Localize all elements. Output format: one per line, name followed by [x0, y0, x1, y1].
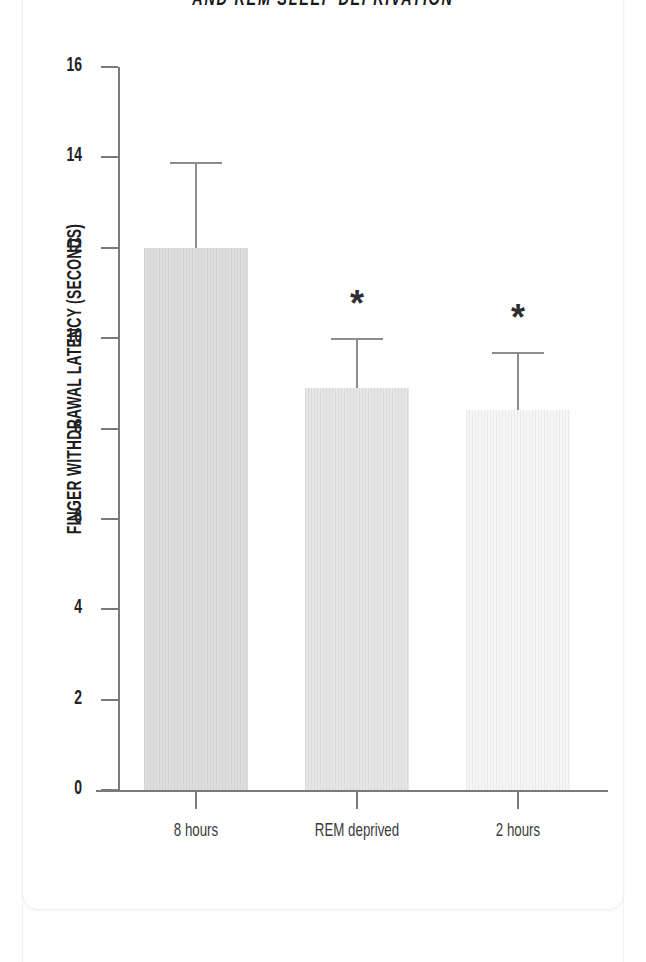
y-tick	[101, 789, 118, 791]
y-tick-label: 6	[2, 505, 82, 528]
y-tick-label: 10	[2, 324, 82, 347]
y-tick	[101, 337, 118, 339]
x-tick	[356, 792, 358, 809]
error-bar-cap	[170, 162, 222, 164]
x-axis-line	[96, 790, 608, 792]
x-tick-label: 2 hours	[448, 819, 588, 841]
bar-rem-deprived	[305, 388, 409, 790]
x-tick	[195, 792, 197, 809]
error-bar-stem	[356, 338, 358, 388]
plot-area: FINGER WITHDRAWAL LATENCY (SECONDS) 0246…	[118, 67, 608, 790]
y-tick-label: 8	[2, 415, 82, 438]
error-bar-stem	[517, 352, 519, 411]
bar-8-hours	[144, 248, 248, 790]
significance-marker: *	[327, 286, 387, 322]
y-tick-label: 4	[2, 595, 82, 618]
error-bar-stem	[195, 162, 197, 248]
y-tick	[101, 66, 118, 68]
y-tick-label: 14	[2, 143, 82, 166]
y-tick-label: 0	[2, 776, 82, 799]
y-tick-label: 2	[2, 686, 82, 709]
significance-marker: *	[488, 300, 548, 336]
error-bar-cap	[331, 338, 383, 340]
y-tick	[101, 156, 118, 158]
chart-title: AND REM SLEEP DEPRIVATION	[90, 0, 555, 10]
y-tick	[101, 518, 118, 520]
x-tick-label: 8 hours	[126, 819, 266, 841]
figure-page: AND REM SLEEP DEPRIVATION FINGER WITHDRA…	[0, 0, 646, 962]
x-tick-label: REM deprived	[287, 819, 427, 841]
y-axis-line	[118, 67, 120, 790]
bar-2-hours	[466, 410, 570, 790]
y-tick	[101, 428, 118, 430]
y-tick	[101, 247, 118, 249]
y-tick-label: 16	[2, 53, 82, 76]
y-tick	[101, 608, 118, 610]
y-tick-label: 12	[2, 234, 82, 257]
x-tick	[517, 792, 519, 809]
y-tick	[101, 699, 118, 701]
error-bar-cap	[492, 352, 544, 354]
y-axis-label: FINGER WITHDRAWAL LATENCY (SECONDS)	[62, 128, 86, 630]
